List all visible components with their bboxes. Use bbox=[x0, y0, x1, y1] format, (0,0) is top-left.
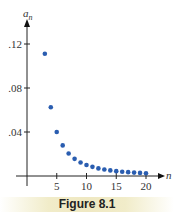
x-axis-arrow-icon bbox=[158, 173, 165, 179]
data-point bbox=[102, 167, 107, 172]
data-point bbox=[49, 105, 54, 110]
x-tick-label: 20 bbox=[141, 180, 153, 192]
data-point bbox=[138, 171, 143, 176]
figure-caption: Figure 8.1 bbox=[0, 197, 174, 212]
data-point bbox=[108, 168, 113, 173]
x-axis-label: n bbox=[166, 169, 172, 181]
y-tick-label: .04 bbox=[8, 126, 22, 138]
data-point bbox=[144, 171, 149, 176]
data-point bbox=[78, 160, 83, 165]
data-point bbox=[66, 151, 71, 156]
data-point bbox=[126, 170, 131, 175]
data-point bbox=[43, 51, 48, 56]
data-point bbox=[54, 130, 59, 135]
x-tick-label: 15 bbox=[111, 180, 123, 192]
data-point bbox=[72, 157, 77, 162]
scatter-plot: 5101520.04.08.12 an n bbox=[0, 0, 174, 197]
y-axis-label: an bbox=[23, 7, 33, 22]
data-point bbox=[96, 166, 101, 171]
data-point bbox=[120, 169, 125, 174]
data-points bbox=[43, 51, 149, 175]
data-point bbox=[90, 165, 95, 170]
y-tick-label: .12 bbox=[8, 38, 22, 50]
x-tick-label: 10 bbox=[81, 180, 93, 192]
x-tick-label: 5 bbox=[54, 180, 60, 192]
figure: 5101520.04.08.12 an n Figure 8.1 bbox=[0, 0, 174, 212]
data-point bbox=[60, 143, 65, 148]
data-point bbox=[132, 170, 137, 175]
y-tick-label: .08 bbox=[8, 82, 22, 94]
data-point bbox=[114, 169, 119, 174]
data-point bbox=[84, 163, 89, 168]
